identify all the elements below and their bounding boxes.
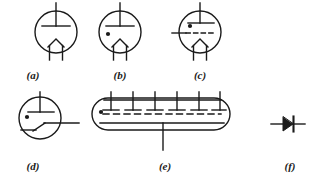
gas-fill-dot-b [106, 32, 110, 36]
symbol-f-semiconductor-diode [271, 117, 305, 132]
symbol-b-gas-filled-diode [99, 3, 141, 60]
circuit-symbol-figure [0, 0, 316, 187]
figure-label-d: (d) [27, 161, 40, 172]
anode-triangle-f [283, 117, 293, 131]
figure-label-b: (b) [114, 70, 127, 81]
cathode-filament-a [48, 39, 64, 47]
cathode-filament-c [192, 39, 208, 47]
gas-fill-dot-c [188, 24, 192, 28]
symbol-e-multi-anode-rectifier [92, 92, 230, 150]
anode-unit-2-e [125, 92, 141, 110]
symbol-c-thyratron-triode [172, 3, 221, 60]
cathode-filament-b [112, 39, 128, 47]
gas-fill-dot-d [25, 115, 29, 119]
anode-unit-1-e [103, 92, 119, 110]
symbol-d-shield-grid-gas-tube [19, 92, 79, 139]
figure-label-c: (c) [194, 70, 206, 81]
symbol-a-vacuum-diode [35, 3, 77, 60]
figure-label-f: (f) [285, 161, 296, 172]
anode-unit-5-e [191, 92, 207, 110]
figure-label-a: (a) [27, 70, 40, 81]
anode-unit-4-e [169, 92, 185, 110]
figure-label-e: (e) [159, 161, 171, 172]
anode-unit-3-e [147, 92, 163, 110]
inclined-grid-segment-d [33, 123, 45, 131]
